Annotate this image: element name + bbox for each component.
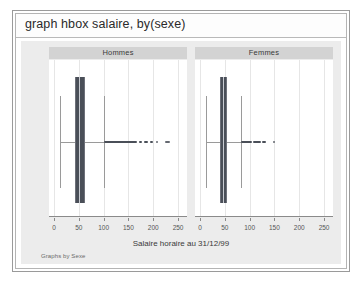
median-line [79,77,80,203]
gridline [250,60,251,217]
outlier-marker [241,141,252,143]
x-axis-tick-label: 50 [221,224,228,231]
x-axis-tick [178,218,179,221]
median-line [223,77,224,203]
lower-whisker [60,142,75,143]
outlier-marker [262,141,267,143]
x-axis-tick [299,218,300,221]
x-axis-tick [324,218,325,221]
panel-hommes: Hommes 050100150200250 [43,47,187,233]
outlier-marker [144,141,148,143]
outlier-marker [253,141,261,143]
x-axis-tick-label: 200 [148,224,159,231]
x-axis-tick-label: 250 [173,224,184,231]
lower-whisker-cap [60,96,61,188]
x-axis-tick [200,218,201,221]
x-axis-title: Salaire horaire au 31/12/99 [21,239,341,248]
panel-header-label: Hommes [49,47,187,59]
gridline [274,60,275,217]
gridline [178,60,179,217]
graph-note: Graphs by Sexe [41,253,85,259]
graph-window-inner: graph hbox salaire, by(sexe) Hommes 0501… [15,13,347,269]
x-axis-tick [54,218,55,221]
x-axis-tick [250,218,251,221]
outlier-marker [139,141,142,143]
outlier-marker [104,141,138,143]
x-axis-tick [274,218,275,221]
panel-femmes: Femmes 050100150200250 [189,47,333,233]
lower-whisker-cap [206,96,207,188]
x-axis-tick-label: 200 [294,224,305,231]
lower-whisker [206,142,220,143]
gridline [128,60,129,217]
x-axis-tick-label: 100 [244,224,255,231]
x-axis-tick [128,218,129,221]
gridline [54,60,55,217]
x-axis-line [195,216,333,217]
x-axis-tick-label: 150 [123,224,134,231]
box [75,77,84,203]
graph-region: Hommes 050100150200250 Femmes 0501001502… [21,41,341,264]
x-axis-tick-label: 0 [198,224,202,231]
outlier-marker [156,141,158,143]
x-axis-tick-label: 250 [319,224,330,231]
x-axis-tick [104,218,105,221]
command-bar: graph hbox salaire, by(sexe) [16,14,346,38]
graph-window: graph hbox salaire, by(sexe) Hommes 0501… [12,10,350,272]
plot-area-femmes [195,60,333,217]
x-axis-tick-label: 150 [269,224,280,231]
panel-header-label: Femmes [195,47,333,59]
gridline [153,60,154,217]
outlier-marker [165,141,170,143]
x-axis-tick-label: 0 [52,224,56,231]
x-axis-tick-label: 50 [75,224,82,231]
x-axis-tick [153,218,154,221]
gridline [200,60,201,217]
upper-whisker [85,142,104,143]
outlier-marker [273,141,275,143]
x-axis-tick-label: 100 [98,224,109,231]
x-axis-line [49,216,187,217]
gridline [324,60,325,217]
gridline [299,60,300,217]
x-axis-tick [225,218,226,221]
plot-area-hommes [49,60,187,217]
command-text: graph hbox salaire, by(sexe) [25,17,186,31]
x-axis-tick [79,218,80,221]
upper-whisker [227,142,241,143]
